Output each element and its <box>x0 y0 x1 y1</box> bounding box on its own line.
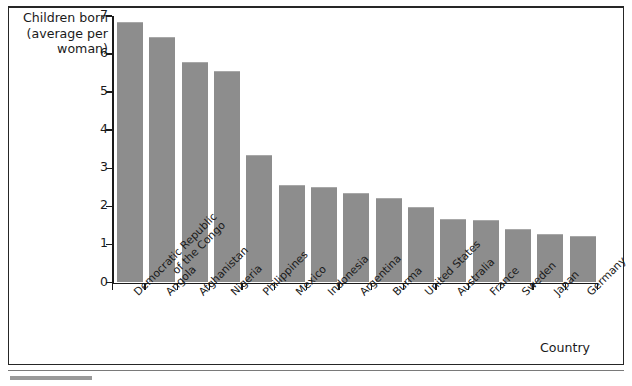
bar <box>117 22 143 283</box>
y-axis-line <box>112 16 114 284</box>
page-bottom-rule <box>8 370 624 371</box>
bar <box>149 37 175 283</box>
figure-container: Children born (average per woman) 012345… <box>0 0 632 386</box>
y-axis-title-line-2: (average per <box>12 26 108 42</box>
x-axis-title: Country <box>540 340 590 355</box>
bar <box>246 155 272 283</box>
y-axis-title: Children born (average per woman) <box>12 10 108 57</box>
page-bottom-marker <box>10 376 92 380</box>
y-axis-title-line-3: woman) <box>12 41 108 57</box>
x-axis-tick <box>112 283 113 290</box>
y-axis-title-line-1: Children born <box>12 10 108 26</box>
